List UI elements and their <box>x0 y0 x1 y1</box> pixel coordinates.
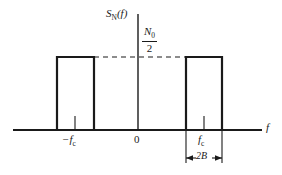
y-axis-label: SN(f) <box>106 8 127 22</box>
plot-canvas <box>0 0 282 175</box>
bandwidth-arrowhead-right <box>215 155 222 161</box>
bandwidth-arrowhead-left <box>186 155 193 161</box>
x-tick-label-positive-fc: fc <box>198 134 204 148</box>
bandwidth-label: 2B <box>196 151 207 161</box>
x-tick-label-negative-fc: −fc <box>62 134 76 148</box>
x-tick-label-zero: 0 <box>134 134 140 145</box>
noise-psd-figure: SN(f) N0 2 −fc 0 fc f 2B <box>0 0 282 175</box>
x-axis-label: f <box>266 122 269 133</box>
y-axis-label-argument: (f) <box>117 7 127 19</box>
x-tick-label-negative-fc-symbol: −f <box>62 133 72 145</box>
level-label-numerator: N0 <box>142 26 157 42</box>
level-label-n0-over-2: N0 2 <box>142 26 157 54</box>
level-label-numerator-subscript: 0 <box>151 31 155 40</box>
x-tick-label-positive-fc-subscript: c <box>201 139 204 148</box>
x-tick-label-negative-fc-subscript: c <box>72 139 75 148</box>
level-label-denominator: 2 <box>142 42 157 54</box>
